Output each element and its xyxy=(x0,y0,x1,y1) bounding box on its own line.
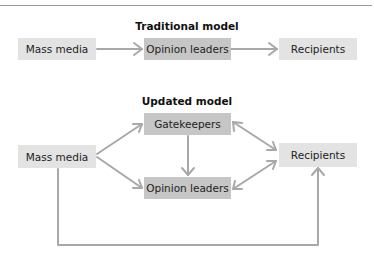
upd-gatekeepers-node: Gatekeepers xyxy=(144,113,231,135)
updated-model-title: Updated model xyxy=(142,95,232,107)
upd-recipients-node: Recipients xyxy=(279,143,357,167)
trad-recipients-node: Recipients xyxy=(279,38,357,60)
traditional-model-title: Traditional model xyxy=(135,20,238,32)
upd-mass-media-node: Mass media xyxy=(18,145,96,168)
upd-opinion-leaders-node: Opinion leaders xyxy=(144,177,231,199)
trad-opinion-leaders-node: Opinion leaders xyxy=(144,38,231,60)
trad-mass-media-node: Mass media xyxy=(18,38,96,60)
